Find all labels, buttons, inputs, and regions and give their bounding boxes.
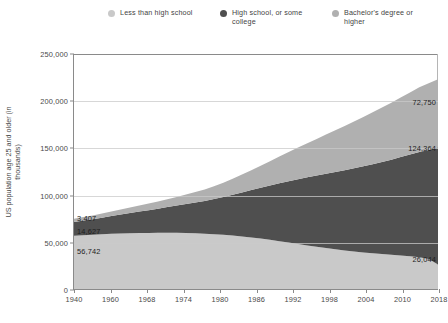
x-tick-label: 2018 bbox=[430, 295, 447, 304]
y-gridline bbox=[74, 101, 438, 102]
y-tick-label: 0 bbox=[64, 286, 74, 295]
legend-swatch-icon bbox=[332, 10, 339, 17]
x-tick-mark bbox=[330, 289, 331, 293]
chart-legend: Less than high school High school, or so… bbox=[108, 8, 438, 26]
legend-item-label: Less than high school bbox=[120, 8, 193, 17]
value-label-high-school-some-college: 14,627 bbox=[77, 227, 101, 236]
legend-item-label: High school, or some college bbox=[232, 8, 318, 26]
legend-swatch-icon bbox=[108, 10, 115, 17]
area-series-group bbox=[74, 54, 438, 289]
x-tick-mark bbox=[403, 289, 404, 293]
x-tick-label: 1974 bbox=[175, 295, 192, 304]
y-tick-label: 150,000 bbox=[40, 144, 74, 153]
legend-item-high-school-some-college[interactable]: High school, or some college bbox=[220, 8, 318, 26]
plot-inner bbox=[74, 54, 438, 289]
x-tick-mark bbox=[184, 289, 185, 293]
y-tick-label: 50,000 bbox=[45, 238, 75, 247]
x-tick-mark bbox=[257, 289, 258, 293]
y-tick-label: 200,000 bbox=[40, 97, 74, 106]
plot-area: 050,000100,000150,000200,000250,000 1940… bbox=[73, 54, 438, 290]
x-tick-label: 1986 bbox=[248, 295, 265, 304]
value-label-bachelors-degree-or-higher: 72,750 bbox=[413, 98, 437, 107]
x-tick-label: 1940 bbox=[65, 295, 82, 304]
y-tick-label: 250,000 bbox=[40, 50, 74, 59]
legend-item-label: Bachelor's degree or higher bbox=[344, 8, 430, 26]
value-label-less-than-high-school: 26,044 bbox=[413, 254, 437, 263]
x-tick-label: 1998 bbox=[321, 295, 338, 304]
legend-swatch-icon bbox=[220, 10, 227, 17]
value-label-less-than-high-school: 56,742 bbox=[77, 247, 101, 256]
x-tick-mark bbox=[74, 289, 75, 293]
x-tick-mark bbox=[111, 289, 112, 293]
x-tick-label: 2004 bbox=[357, 295, 374, 304]
value-label-high-school-some-college: 124,364 bbox=[408, 144, 436, 153]
legend-item-bachelors-degree-or-higher[interactable]: Bachelor's degree or higher bbox=[332, 8, 430, 26]
y-tick-label: 100,000 bbox=[40, 191, 74, 200]
stacked-area-chart: Less than high school High school, or so… bbox=[0, 0, 448, 323]
x-tick-label: 2010 bbox=[394, 295, 411, 304]
x-tick-label: 1968 bbox=[138, 295, 155, 304]
y-gridline bbox=[74, 196, 438, 197]
x-tick-label: 1980 bbox=[211, 295, 228, 304]
value-label-bachelors-degree-or-higher: 3,407 bbox=[77, 213, 96, 222]
x-tick-mark bbox=[293, 289, 294, 293]
legend-item-less-than-high-school[interactable]: Less than high school bbox=[108, 8, 206, 17]
x-tick-mark bbox=[366, 289, 367, 293]
y-gridline bbox=[74, 148, 438, 149]
x-tick-mark bbox=[220, 289, 221, 293]
x-tick-mark bbox=[439, 289, 440, 293]
x-tick-label: 1992 bbox=[284, 295, 301, 304]
y-gridline bbox=[74, 243, 438, 244]
x-tick-mark bbox=[147, 289, 148, 293]
x-tick-label: 1960 bbox=[102, 295, 119, 304]
y-axis-title: US population age 25 and older (in thous… bbox=[4, 92, 23, 232]
